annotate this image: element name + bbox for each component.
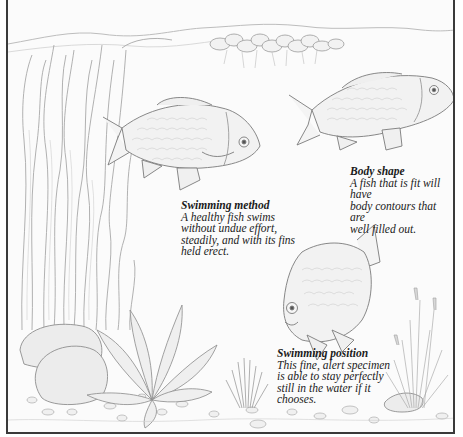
caption-swimming-method: Swimming method A healthy fish swims wit… xyxy=(181,200,295,258)
caption-body-shape: Body shape A fish that is fit will have … xyxy=(350,166,453,235)
tall-plants-icon xyxy=(22,38,172,330)
caption-line: without undue effort, xyxy=(181,223,295,235)
floating-plants-icon xyxy=(210,34,344,52)
caption-line: body contours that are xyxy=(350,201,453,224)
fish-body-shape-icon xyxy=(289,73,454,150)
tall-grass-icon xyxy=(386,288,448,408)
caption-title: Swimming position xyxy=(277,348,390,360)
caption-line: well filled out. xyxy=(350,224,453,236)
caption-line: chooses. xyxy=(277,394,390,406)
grass-clump-icon xyxy=(226,358,268,408)
caption-title: Swimming method xyxy=(181,200,295,212)
caption-swimming-position: Swimming position This fine, alert speci… xyxy=(277,348,390,406)
fish-swimming-position-icon xyxy=(284,225,380,360)
caption-title: Body shape xyxy=(350,166,453,178)
fish-swimming-method-icon xyxy=(103,98,260,191)
aquarium-illustration: Swimming method A healthy fish swims wit… xyxy=(6,0,455,434)
caption-line: is able to stay perfectly xyxy=(277,371,390,383)
caption-line: A fish that is fit will have xyxy=(350,178,453,201)
caption-line: held erect. xyxy=(181,246,295,258)
